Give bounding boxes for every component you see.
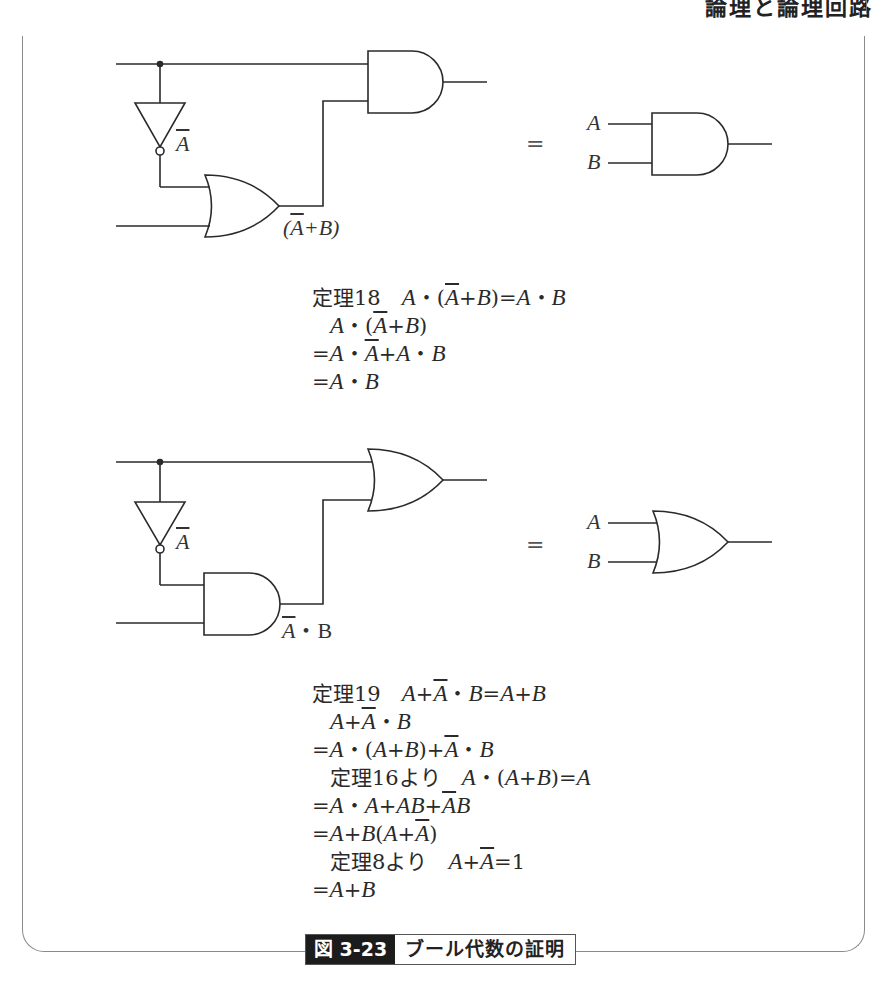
circuit2-inverter-label: A [176,529,189,555]
circuit2-and-gate [204,573,280,635]
circuit2-and-output-label: A・B [282,612,332,644]
circuit2-junction-dot [157,459,164,466]
circuit1-inverter-label: A [176,131,189,157]
circuit1-equals-sign: = [526,131,544,156]
proof-line: =A・B [312,368,566,396]
theorem-label: 定理19 [312,682,402,706]
proof-line: =A+B(A+A) [312,820,591,848]
theorem-label: 定理18 [312,286,402,310]
figure-title: ブール代数の証明 [395,935,575,964]
proof-line: 定理19 A+A・B=A+B [312,680,591,708]
proof-line: A・(A+B) [312,312,566,340]
figure-caption: 図 3-23 ブール代数の証明 [305,934,576,965]
proof-line: =A・(A+B)+A・B [312,736,591,764]
circuit2-equals-sign: = [526,532,544,557]
figure-number: 図 3-23 [306,935,395,964]
circuit2-or-gate [368,449,443,511]
circuit1-and-gate [368,51,443,113]
not-a: A [282,618,295,643]
circuit1-wires [116,64,487,226]
proof-line: 定理18 A・(A+B)=A・B [312,284,566,312]
proof-line: =A・A+AB+AB [312,792,591,820]
not-a: A [290,215,303,240]
theorem-reference: 定理16より [330,766,462,790]
circuit2-equiv-input-b: B [587,548,600,574]
proof-line: A+A・B [312,708,591,736]
theorem-reference: 定理8より [330,850,448,874]
circuit1-equiv-input-a: A [587,110,600,136]
proof-line: 定理16より A・(A+B)=A [312,764,591,792]
proof-line: =A・A+A・B [312,340,566,368]
circuit1-or-gate [205,175,279,237]
circuit2-equiv-input-a: A [587,509,600,535]
theorem18-proof: 定理18 A・(A+B)=A・B A・(A+B) =A・A+A・B =A・B [312,284,566,396]
dot-b: ・B [295,618,332,643]
proof-line: =A+B [312,876,591,904]
theorem19-proof: 定理19 A+A・B=A+B A+A・B =A・(A+B)+A・B 定理16より… [312,680,591,904]
proof-line: 定理8より A+A=1 [312,848,591,876]
circuit1-equivalent-and [608,113,772,175]
circuit2-wires [116,462,487,623]
circuit1-equiv-input-b: B [587,149,600,175]
circuit2-equivalent-or [608,511,772,573]
circuit1-junction-dot [157,61,164,68]
circuit1-or-output-label: (A+B) [283,215,339,241]
plus-b: +B) [304,215,340,240]
